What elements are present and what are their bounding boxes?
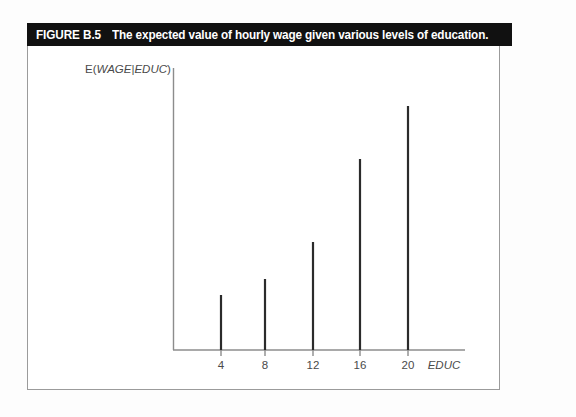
x-tick-label-20: 20: [402, 359, 415, 371]
x-axis-title: EDUC: [428, 359, 461, 371]
figure-number-label: FIGURE B.5: [36, 28, 101, 42]
figure-container: FIGURE B.5 The expected value of hourly …: [0, 0, 576, 417]
figure-caption-bar: FIGURE B.5 The expected value of hourly …: [27, 23, 512, 46]
x-tick-label-16: 16: [354, 359, 367, 371]
x-tick-label-12: 12: [307, 359, 320, 371]
plot-area: E(WAGE|EDUC) 4 8 12 16 20 EDUC: [27, 46, 500, 390]
figure-caption-text: The expected value of hourly wage given …: [112, 28, 488, 42]
x-tick-label-4: 4: [218, 359, 225, 371]
chart-svg: E(WAGE|EDUC) 4 8 12 16 20 EDUC: [27, 46, 500, 390]
y-axis-label: E(WAGE|EDUC): [85, 63, 171, 75]
x-tick-label-8: 8: [262, 359, 268, 371]
